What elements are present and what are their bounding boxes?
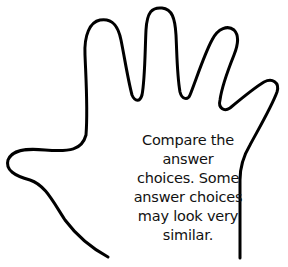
caption-text: Compare the answer choices. Some answer … (118, 131, 258, 245)
caption-line-4: answer choices (118, 188, 258, 207)
caption-line-3: choices. Some (118, 169, 258, 188)
caption-line-6: similar. (118, 226, 258, 245)
caption-line-2: answer (118, 150, 258, 169)
caption-line-1: Compare the (118, 131, 258, 150)
caption-line-5: may look very (118, 207, 258, 226)
